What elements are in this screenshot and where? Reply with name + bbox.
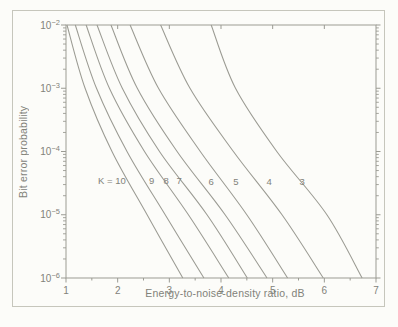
y-tick-label: 10−5 <box>40 207 60 220</box>
ber-curve-K=8 <box>86 25 229 278</box>
curve-label: 5 <box>233 176 238 187</box>
curve-label: 6 <box>209 176 214 187</box>
ber-curve-K=9 <box>75 25 204 278</box>
ber-chart: 123456710−210−310−410−510−6K = 109876543 <box>0 0 398 327</box>
curve-label: K = 10 <box>98 175 126 186</box>
ber-curve-K=5 <box>130 25 288 278</box>
y-axis-title: Bit error probability <box>17 25 29 278</box>
ber-curve-K=10 <box>67 25 183 278</box>
y-tick-label: 10−3 <box>40 81 60 94</box>
curve-label: 9 <box>149 175 154 186</box>
y-tick-label: 10−4 <box>40 144 60 157</box>
figure-border <box>13 11 385 307</box>
curve-label: 8 <box>164 175 169 186</box>
y-tick-label: 10−6 <box>40 271 60 284</box>
curve-label: 4 <box>266 176 271 187</box>
x-axis-title: Energy-to-noise-density ratio, dB <box>66 287 384 299</box>
ber-curve-K=6 <box>111 25 267 278</box>
ber-figure: 123456710−210−310−410−510−6K = 109876543… <box>0 0 398 327</box>
curve-label: 3 <box>299 176 304 187</box>
y-tick-label: 10−2 <box>40 18 60 31</box>
curve-label: 7 <box>177 175 182 186</box>
